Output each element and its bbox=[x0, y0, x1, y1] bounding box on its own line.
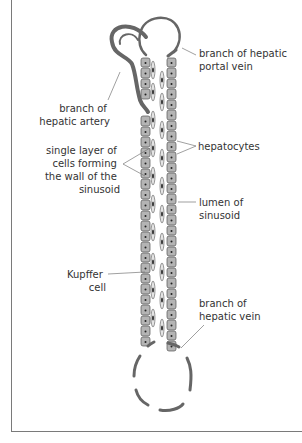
label-kupffer: Kupffer cell bbox=[67, 269, 106, 293]
endothelial-cells bbox=[151, 61, 164, 337]
hepatic-vein-vessel bbox=[134, 342, 191, 411]
label-hepatic-vein: branch of hepatic vein bbox=[199, 298, 261, 322]
right-hepatocyte-column bbox=[167, 58, 176, 351]
label-wall: single layer of cells forming the wall o… bbox=[45, 145, 120, 195]
label-hepatocytes: hepatocytes bbox=[198, 141, 260, 152]
leader-lines bbox=[108, 48, 204, 348]
sinusoid-diagram: branch of hepatic portal vein branch of … bbox=[0, 0, 302, 443]
label-lumen: lumen of sinusoid bbox=[199, 197, 246, 221]
label-hepatic-artery: branch of hepatic artery bbox=[39, 103, 110, 127]
label-portal-vein: branch of hepatic portal vein bbox=[199, 48, 290, 72]
